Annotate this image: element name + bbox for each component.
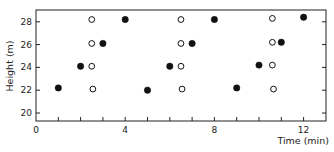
open-data-point — [178, 41, 184, 47]
filled-data-point — [189, 40, 195, 46]
y-tick-label: 26 — [21, 40, 33, 50]
filled-data-point — [144, 87, 150, 93]
filled-data-point — [122, 16, 128, 22]
open-data-point — [178, 17, 184, 23]
filled-data-point — [100, 40, 106, 46]
filled-data-point — [234, 85, 240, 91]
filled-data-point — [77, 63, 83, 69]
open-data-point — [89, 41, 95, 47]
open-data-point — [90, 86, 96, 92]
y-tick-label: 22 — [21, 85, 32, 95]
filled-data-point — [167, 63, 173, 69]
x-tick-label: 8 — [212, 125, 218, 135]
y-tick-label: 24 — [21, 62, 33, 72]
filled-data-point — [55, 85, 61, 91]
x-tick-label: 12 — [298, 125, 309, 135]
open-data-point — [178, 63, 184, 69]
open-data-point — [179, 86, 185, 92]
open-data-point — [89, 63, 95, 69]
x-tick-label: 0 — [33, 125, 39, 135]
filled-data-point — [300, 14, 306, 20]
filled-data-point — [211, 16, 217, 22]
open-data-point — [271, 86, 277, 92]
scatter-chart: 048122022242628 Time (min) Height (m) — [0, 0, 334, 152]
open-data-point — [269, 15, 275, 21]
y-tick-label: 28 — [21, 17, 33, 27]
filled-data-point — [278, 39, 284, 45]
x-axis-label: Time (min) — [276, 135, 329, 146]
x-tick-label: 4 — [122, 125, 128, 135]
open-data-point — [269, 39, 275, 45]
open-data-point — [89, 17, 95, 23]
open-data-point — [269, 62, 275, 68]
filled-data-point — [256, 62, 262, 68]
y-tick-label: 20 — [21, 108, 33, 118]
y-axis-label: Height (m) — [4, 40, 15, 91]
